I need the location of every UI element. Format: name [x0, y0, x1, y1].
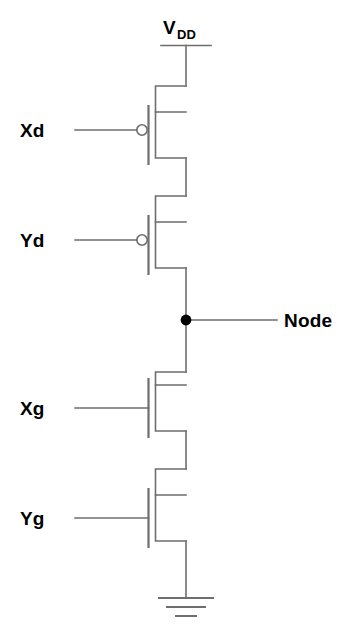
circuit-diagram: Xd Yd Node Xg [0, 0, 350, 631]
nmos-xg-channel [156, 385, 187, 431]
nmos-yg-channel [156, 495, 187, 541]
vdd-to-pmos-xd-wire [156, 86, 187, 112]
junction-dot-icon [181, 315, 192, 326]
pmos-xd-inversion-bubble-icon [137, 125, 147, 135]
vdd-label: V [163, 17, 176, 38]
pmos-xd[interactable]: Xd [20, 105, 186, 165]
output-label-node: Node [284, 310, 332, 331]
input-label-xg: Xg [20, 398, 45, 419]
vdd-label-subscript: DD [177, 27, 196, 42]
pmos-xd-channel [156, 112, 187, 158]
pmos-yd-inversion-bubble-icon [137, 235, 147, 245]
rail-xg-to-yg-step [156, 469, 187, 495]
nmos-xg[interactable]: Xg [20, 378, 186, 438]
vdd-label-group: V DD [163, 17, 196, 42]
rail-node-to-xg-step [156, 372, 187, 385]
input-label-yd: Yd [20, 230, 45, 251]
input-label-yg: Yg [20, 508, 45, 529]
ground-symbol [158, 541, 214, 616]
vdd-supply [156, 46, 212, 113]
rail-xd-to-yd-step [156, 196, 187, 222]
nmos-yg[interactable]: Yg [20, 488, 186, 548]
pmos-yd[interactable]: Yd [20, 215, 186, 275]
output-node[interactable]: Node [181, 310, 333, 331]
input-label-xd: Xd [20, 120, 45, 141]
schematic-canvas: Xd Yd Node Xg [0, 0, 350, 631]
pmos-yd-channel [156, 222, 187, 268]
